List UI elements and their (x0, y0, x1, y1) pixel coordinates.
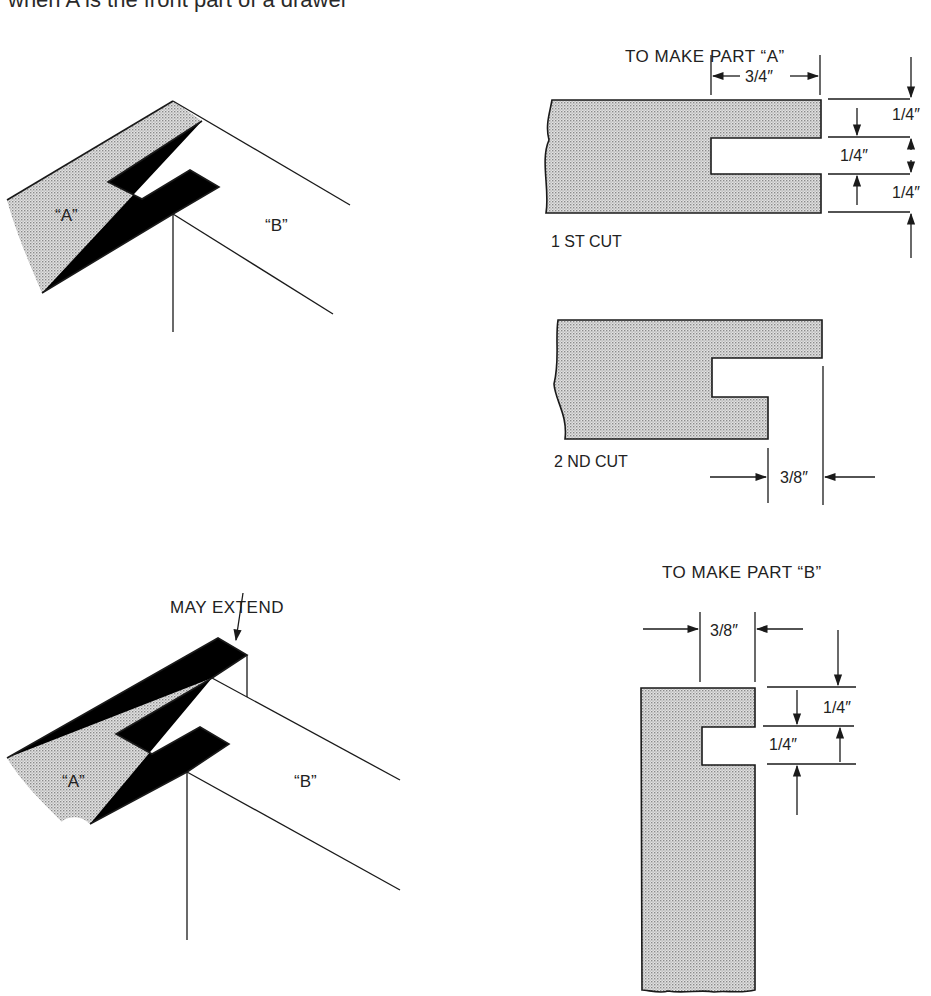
second-cut-width-dim: 3/8″ (780, 469, 808, 486)
iso-view-top: “A” “B” (7, 101, 350, 332)
iso-view-bottom: “A” “B” MAY EXTEND (7, 593, 400, 940)
part-a-label: “A” (55, 206, 78, 225)
part-a-title: TO MAKE PART “A” (625, 47, 785, 66)
part-b-width-dim: 3/8″ (710, 622, 738, 639)
part-a-section: TO MAKE PART “A” 3/4″ 1/4″ 1/4″ 1/4″ 1 S… (545, 47, 920, 258)
part-b-title: TO MAKE PART “B” (662, 563, 822, 582)
part-b-label: “B” (294, 772, 317, 791)
first-cut-label: 1 ST CUT (551, 233, 622, 250)
first-cut-top-dim: 1/4″ (892, 106, 920, 123)
second-cut-label: 2 ND CUT (554, 453, 628, 470)
part-b-board (641, 688, 755, 992)
part-a-label: “A” (62, 772, 85, 791)
first-cut-middle-dim: 1/4″ (840, 147, 868, 164)
part-b-slot-dim: 1/4″ (769, 736, 797, 753)
part-b-section: TO MAKE PART “B” 3/8″ 1/4″ 1/4″ (641, 563, 856, 992)
joinery-diagram: “A” “B” “A” “B” MAY EXTEND TO MAKE PART … (0, 0, 931, 996)
first-cut-bottom-dim: 1/4″ (892, 184, 920, 201)
first-cut-board (545, 100, 821, 213)
second-cut-board (554, 320, 822, 439)
part-b-label: “B” (265, 216, 288, 235)
first-cut-depth-dim: 3/4″ (745, 68, 773, 85)
may-extend-callout: MAY EXTEND (170, 598, 284, 617)
part-a-second-cut: 3/8″ 2 ND CUT (554, 320, 875, 505)
part-b-top-dim: 1/4″ (823, 699, 851, 716)
